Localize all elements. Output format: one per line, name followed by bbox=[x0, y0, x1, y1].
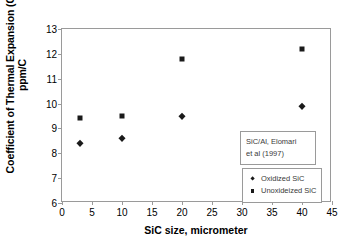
legend-label: Oxidized SiC bbox=[261, 173, 304, 185]
legend-label: Unoxideized SiC bbox=[261, 185, 316, 197]
data-point bbox=[300, 46, 305, 51]
y-tick-mark bbox=[58, 178, 62, 179]
y-tick-mark bbox=[58, 54, 62, 55]
diamond-marker-icon bbox=[248, 177, 257, 180]
y-tick-mark bbox=[58, 128, 62, 129]
x-tick-label: 5 bbox=[89, 207, 95, 218]
x-tick-mark bbox=[92, 201, 93, 205]
data-point bbox=[180, 56, 185, 61]
x-tick-label: 45 bbox=[326, 207, 337, 218]
y-tick-mark bbox=[58, 104, 62, 105]
x-tick-mark bbox=[152, 201, 153, 205]
legend-item: Unoxideized SiC bbox=[248, 185, 316, 197]
annotation-line-2: et al (1997) bbox=[246, 148, 310, 160]
x-axis-title: SiC size, micrometer bbox=[61, 224, 331, 236]
x-tick-mark bbox=[332, 201, 333, 205]
x-tick-label: 20 bbox=[176, 207, 187, 218]
y-tick-mark bbox=[58, 79, 62, 80]
legend-item: Oxidized SiC bbox=[248, 173, 316, 185]
square-marker-icon bbox=[248, 189, 257, 193]
y-axis-title: Coefficient of Thermal Expansion (CTE), … bbox=[0, 0, 34, 170]
x-tick-mark bbox=[212, 201, 213, 205]
data-point bbox=[120, 114, 125, 119]
y-tick-label: 10 bbox=[46, 98, 57, 109]
data-point bbox=[77, 140, 83, 146]
x-tick-mark bbox=[62, 201, 63, 205]
y-tick-label: 13 bbox=[46, 24, 57, 35]
data-point bbox=[119, 135, 125, 141]
y-tick-label: 9 bbox=[51, 123, 57, 134]
x-tick-label: 10 bbox=[116, 207, 127, 218]
x-tick-label: 35 bbox=[266, 207, 277, 218]
x-tick-label: 15 bbox=[146, 207, 157, 218]
annotation-box: SiC/Al, Elomari et al (1997) bbox=[240, 131, 316, 165]
x-tick-label: 25 bbox=[206, 207, 217, 218]
y-tick-mark bbox=[58, 29, 62, 30]
data-point bbox=[179, 113, 185, 119]
chart-legend: Oxidized SiCUnoxideized SiC bbox=[242, 168, 322, 203]
data-point bbox=[299, 103, 305, 109]
plot-area: 678910111213 051015202530354045 SiC/Al, … bbox=[61, 28, 331, 202]
data-point bbox=[78, 116, 83, 121]
chart-figure: Coefficient of Thermal Expansion (CTE), … bbox=[0, 0, 352, 245]
y-tick-mark bbox=[58, 153, 62, 154]
x-tick-mark bbox=[122, 201, 123, 205]
y-tick-label: 6 bbox=[51, 198, 57, 209]
y-tick-label: 12 bbox=[46, 48, 57, 59]
annotation-line-1: SiC/Al, Elomari bbox=[246, 136, 310, 148]
y-tick-label: 7 bbox=[51, 173, 57, 184]
y-axis-title-line-2: ppm/C bbox=[17, 59, 29, 91]
x-tick-mark bbox=[182, 201, 183, 205]
x-tick-label: 30 bbox=[236, 207, 247, 218]
y-tick-label: 8 bbox=[51, 148, 57, 159]
x-tick-label: 0 bbox=[59, 207, 65, 218]
y-tick-label: 11 bbox=[47, 73, 57, 84]
x-tick-label: 40 bbox=[296, 207, 307, 218]
